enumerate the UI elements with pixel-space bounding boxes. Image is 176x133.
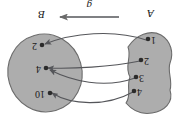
- element-label-a-3: 3: [139, 73, 144, 83]
- element-dot-a-1: [146, 37, 151, 42]
- element-dot-a-4: [132, 89, 137, 94]
- element-label-a-1: 1: [151, 35, 156, 45]
- element-dot-a-2: [139, 58, 144, 63]
- element-dot-b-10: [48, 91, 53, 96]
- set-b-name-label: B: [38, 9, 45, 20]
- element-label-b-4: 4: [36, 64, 41, 74]
- element-label-b-10: 10: [35, 89, 45, 99]
- figure-canvas: 1 2 3 4 2 4 10 A B g: [0, 0, 176, 133]
- function-name-label: g: [87, 0, 93, 11]
- element-label-a-4: 4: [137, 87, 142, 97]
- rotated-figure-group: 1 2 3 4 2 4 10 A B g: [0, 0, 176, 133]
- element-label-a-2: 2: [144, 56, 149, 66]
- element-label-b-2: 2: [32, 41, 37, 51]
- element-dot-b-4: [44, 66, 49, 71]
- set-a-name-label: A: [147, 8, 154, 19]
- set-b-blob: [0, 25, 91, 120]
- element-dot-b-2: [40, 43, 45, 48]
- set-a-blob: [126, 33, 172, 114]
- element-dot-a-3: [134, 75, 139, 80]
